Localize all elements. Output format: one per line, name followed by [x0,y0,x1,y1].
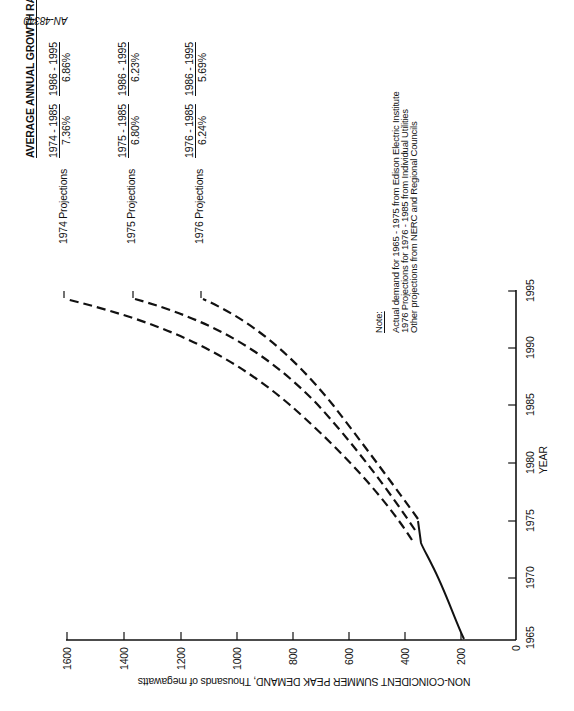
tick-400: 400 [399,648,411,665]
tick-1995: 1995 [524,279,536,302]
x-axis-title: YEAR [537,446,549,474]
tick-1980: 1980 [524,451,536,474]
y-axis-title: NON-COINCIDENT SUMMER PEAK DEMAND, Thous… [138,676,470,688]
tick-200: 200 [455,648,467,665]
tick-1200: 1200 [175,647,187,670]
tick-800: 800 [287,648,299,665]
demand-ticks [67,632,461,640]
tick-1985: 1985 [524,393,536,416]
tick-1990: 1990 [524,336,536,359]
tick-1000: 1000 [231,647,243,670]
projection-1976-line [203,299,418,519]
year-ticks [508,291,516,578]
projection-1974-line [66,299,412,540]
tick-600: 600 [343,648,355,665]
chart-plot [0,0,574,711]
actual-demand-line [418,521,464,639]
tick-1970: 1970 [524,566,536,589]
tick-1965: 1965 [524,626,536,649]
tick-1400: 1400 [118,647,130,670]
tick-1600: 1600 [61,647,73,670]
tick-1975: 1975 [524,509,536,532]
tick-0: 0 [510,645,522,651]
